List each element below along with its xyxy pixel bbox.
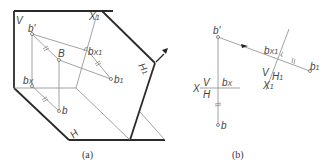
equal-tick (294, 59, 295, 64)
label-V: V (16, 15, 24, 26)
label-b-prime: b' (213, 25, 222, 36)
equal-tick (215, 105, 221, 106)
label-bx1: bX1 (88, 46, 102, 57)
label-b-prime: b' (28, 23, 37, 34)
label-H: H (68, 127, 81, 141)
label-X1: X1 (88, 11, 100, 22)
label-b: b (62, 105, 68, 116)
rotation-arrow-icon (162, 48, 168, 54)
label-b1: b1 (114, 74, 124, 85)
rotation-arrow-shaft (156, 54, 164, 62)
label-x: X (192, 83, 200, 94)
label-V-H1-H: H1 (272, 71, 283, 82)
equal-tick (292, 58, 293, 63)
h-plane-left-edge (14, 88, 69, 140)
label-H: H (203, 89, 211, 100)
right-angle-dot (280, 54, 281, 55)
label-V: V (203, 77, 211, 88)
label-B: B (58, 48, 65, 59)
point-b1 (110, 78, 113, 81)
label-H1: H1 (136, 61, 151, 76)
equal-tick (95, 61, 100, 64)
point-b (217, 124, 220, 127)
right-angle-mark (282, 52, 283, 57)
bx-b-line (32, 86, 59, 111)
label-V-H1-V: V (262, 67, 270, 78)
panel-b: b' bX1 b1 V H1 X1 X V H bX b (b) (192, 25, 320, 161)
h1-lower-edge (140, 112, 165, 140)
projection-diagram: V b' B bX b b1 bX1 X1 H1 H (a) (0, 0, 331, 168)
label-b: b (221, 120, 227, 131)
panel-a: V b' B bX b b1 bX1 X1 H1 H (a) (14, 11, 168, 161)
label-bx: bX (222, 77, 233, 88)
point-b (58, 110, 61, 113)
equal-tick (215, 103, 221, 104)
label-b1: b1 (310, 61, 320, 72)
h-h1-intersection (76, 88, 130, 140)
h1-plane-top-edge (102, 11, 155, 63)
label-bx1: bX1 (264, 45, 278, 56)
caption-b: (b) (232, 149, 244, 161)
caption-a: (a) (82, 149, 93, 161)
